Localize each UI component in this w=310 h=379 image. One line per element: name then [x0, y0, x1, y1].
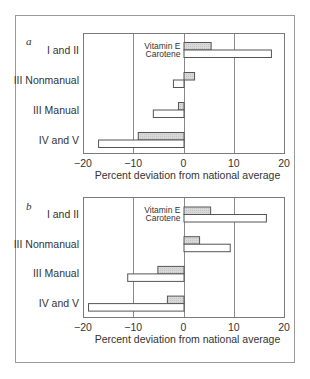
- bar-vitamin-e: [167, 296, 184, 304]
- x-tick-labels: −20−1001020: [74, 321, 290, 333]
- x-tick-label: 10: [228, 321, 240, 333]
- x-axis-label: Percent deviation from national average: [95, 169, 281, 181]
- x-tick-label: 10: [228, 157, 240, 169]
- bar-carotene: [153, 110, 184, 118]
- bar-vitamin-e: [184, 207, 211, 215]
- category-label: I and II: [47, 208, 79, 220]
- category-label: I and II: [47, 44, 79, 56]
- bar-carotene: [128, 274, 184, 282]
- bar-vitamin-e: [184, 43, 211, 51]
- bar-carotene: [89, 304, 184, 312]
- x-tick-label: −20: [74, 157, 92, 169]
- bar-carotene: [184, 244, 230, 252]
- figure: a I and IIIII NonmanualIII ManualIV and …: [0, 0, 310, 379]
- legend-carotene: Carotene: [146, 213, 181, 223]
- chart-canvas: a I and IIIII NonmanualIII ManualIV and …: [0, 0, 310, 379]
- panel-letter-b: b: [26, 200, 32, 212]
- category-labels: I and IIIII NonmanualIII ManualIV and V: [14, 44, 79, 146]
- bar-carotene: [184, 50, 271, 58]
- category-label: IV and V: [39, 134, 79, 146]
- category-label: III Nonmanual: [14, 74, 79, 86]
- x-tick-label: 0: [181, 321, 187, 333]
- panel-a: a I and IIIII NonmanualIII ManualIV and …: [14, 33, 290, 181]
- x-tick-label: 20: [278, 321, 290, 333]
- x-tick-label: −10: [124, 157, 142, 169]
- category-labels: I and IIIII NonmanualIII ManualIV and V: [14, 208, 79, 309]
- bar-carotene: [99, 140, 184, 148]
- category-label: III Manual: [33, 104, 79, 116]
- bar-vitamin-e: [138, 133, 184, 141]
- x-tick-label: 0: [181, 157, 187, 169]
- bar-vitamin-e: [184, 237, 200, 245]
- category-label: III Nonmanual: [14, 238, 79, 250]
- x-tick-label: 20: [278, 157, 290, 169]
- x-tick-label: −20: [74, 321, 92, 333]
- bar-vitamin-e: [158, 266, 184, 274]
- x-axis-label: Percent deviation from national average: [95, 333, 281, 345]
- category-label: III Manual: [33, 267, 79, 279]
- bar-carotene: [173, 80, 184, 88]
- legend-carotene: Carotene: [146, 49, 181, 59]
- category-label: IV and V: [39, 297, 79, 309]
- bars: [99, 43, 272, 148]
- panel-letter-a: a: [26, 35, 32, 47]
- bar-vitamin-e: [178, 103, 184, 111]
- bar-vitamin-e: [184, 73, 195, 81]
- bar-carotene: [184, 215, 266, 223]
- x-tick-label: −10: [124, 321, 142, 333]
- x-tick-labels: −20−1001020: [74, 157, 290, 169]
- panel-b: b I and IIIII NonmanualIII ManualIV and …: [14, 197, 290, 345]
